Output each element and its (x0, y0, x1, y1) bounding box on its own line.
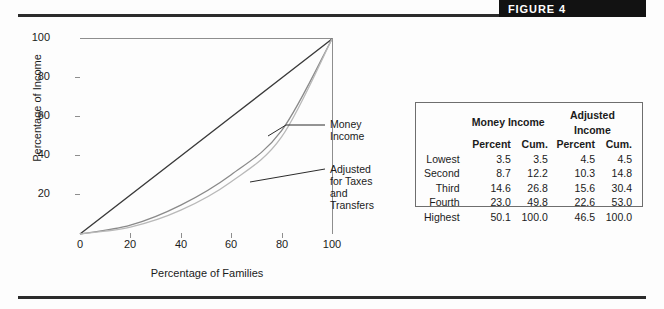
annotation-money-income-label: Money Income (330, 118, 364, 142)
cell-adjusted-percent: 15.6 (553, 181, 595, 196)
cell-money-percent: 50.1 (469, 210, 511, 225)
sub-header-money-cum: Cum. (511, 137, 548, 152)
plot-frame (80, 38, 333, 234)
figure-banner-label: FIGURE 4 (508, 3, 566, 15)
cell-money-percent: 8.7 (469, 166, 511, 181)
cell-money-cum: 100.0 (511, 210, 548, 225)
y-tick-label-60: 60 (20, 109, 50, 121)
table-body: Lowest3.53.54.54.5Second8.712.210.314.8T… (424, 152, 632, 225)
row-label-cell: Fourth (424, 195, 469, 210)
cell-adjusted-cum: 14.8 (595, 166, 632, 181)
cell-money-percent: 14.6 (469, 181, 511, 196)
annotation-adjusted-line1: Adjusted for Taxes (330, 163, 374, 187)
quintile-table: Money Income Adjusted Income Percent Cum… (424, 108, 632, 224)
x-tick-label-20: 20 (115, 238, 145, 250)
cell-adjusted-percent: 4.5 (553, 152, 595, 167)
cell-adjusted-cum: 30.4 (595, 181, 632, 196)
table-row: Lowest3.53.54.54.5 (424, 152, 632, 167)
chart-area: Percentage of Income Percentage of Famil… (18, 24, 368, 286)
annotation-money-income: Money Income (330, 118, 368, 142)
annotation-adjusted-line2: and Transfers (330, 187, 374, 211)
cell-money-cum: 12.2 (511, 166, 548, 181)
row-label-cell: Second (424, 166, 469, 181)
table-row: Highest50.1100.046.5100.0 (424, 210, 632, 225)
sub-header-money-percent: Percent (469, 137, 511, 152)
table-corner-cell (424, 108, 469, 137)
data-table: Money Income Adjusted Income Percent Cum… (415, 102, 643, 207)
row-label-cell: Lowest (424, 152, 469, 167)
sub-header-adjusted-percent: Percent (553, 137, 595, 152)
cell-money-cum: 49.8 (511, 195, 548, 210)
x-tick-label-80: 80 (267, 238, 297, 250)
cell-adjusted-cum: 100.0 (595, 210, 632, 225)
group-header-money-income: Money Income (469, 108, 548, 137)
row-label-cell: Third (424, 181, 469, 196)
cell-adjusted-percent: 10.3 (553, 166, 595, 181)
cell-adjusted-percent: 46.5 (553, 210, 595, 225)
x-tick-label-60: 60 (216, 238, 246, 250)
x-tick-label-40: 40 (166, 238, 196, 250)
table-group-header-row: Money Income Adjusted Income (424, 108, 632, 137)
bottom-rule (18, 296, 646, 299)
cell-money-cum: 26.8 (511, 181, 548, 196)
sub-header-adjusted-cum: Cum. (595, 137, 632, 152)
annotation-adjusted: Adjusted for Taxes and Transfers (330, 163, 374, 211)
cell-money-cum: 3.5 (511, 152, 548, 167)
y-tick-label-40: 40 (20, 148, 50, 160)
table-corner-cell-2 (424, 137, 469, 152)
cell-adjusted-percent: 22.6 (553, 195, 595, 210)
x-tick-label-0: 0 (65, 238, 95, 250)
table-row: Third14.626.815.630.4 (424, 181, 632, 196)
row-label-cell: Highest (424, 210, 469, 225)
lorenz-curve-svg (80, 39, 332, 235)
y-tick-label-20: 20 (20, 187, 50, 199)
figure-root: FIGURE 4 Percentage of Income Percentage… (0, 0, 664, 309)
y-tick-label-80: 80 (20, 70, 50, 82)
table-row: Second8.712.210.314.8 (424, 166, 632, 181)
x-tick-label-100: 100 (317, 238, 347, 250)
group-header-adjusted-income: Adjusted Income (553, 108, 632, 137)
cell-adjusted-cum: 4.5 (595, 152, 632, 167)
series-layer (80, 39, 332, 234)
table-row: Fourth23.049.822.653.0 (424, 195, 632, 210)
cell-adjusted-cum: 53.0 (595, 195, 632, 210)
y-tick-label-100: 100 (20, 31, 50, 43)
cell-money-percent: 23.0 (469, 195, 511, 210)
cell-money-percent: 3.5 (469, 152, 511, 167)
x-axis-title: Percentage of Families (62, 267, 352, 279)
table-sub-header-row: Percent Cum. Percent Cum. (424, 137, 632, 152)
series-line-of-equality (80, 39, 332, 234)
figure-banner: FIGURE 4 (499, 0, 646, 17)
y-axis-title: Percentage of Income (31, 33, 43, 183)
